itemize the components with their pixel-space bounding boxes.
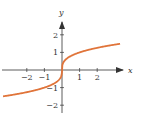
y-tick-label: 1 bbox=[53, 48, 58, 57]
y-tick-label: −2 bbox=[46, 101, 58, 110]
y-axis-label: y bbox=[58, 8, 64, 17]
cube-root-plot: −2−112 −2−112 x y bbox=[0, 0, 141, 118]
x-tick-label: 1 bbox=[77, 73, 82, 82]
x-tick-label: 2 bbox=[95, 73, 100, 82]
x-tick-label: −2 bbox=[21, 73, 33, 82]
x-axis-label: x bbox=[128, 66, 133, 75]
x-tick-label: −1 bbox=[39, 73, 51, 82]
y-tick-label: 2 bbox=[53, 31, 58, 40]
